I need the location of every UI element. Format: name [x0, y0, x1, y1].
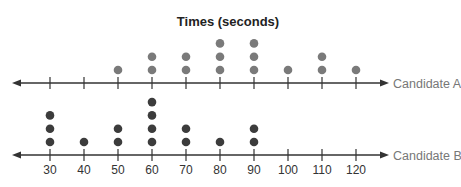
data-dot — [148, 66, 157, 75]
tick-label: 100 — [278, 163, 298, 177]
tick-label: 60 — [145, 163, 159, 177]
data-dot — [250, 138, 259, 147]
data-dot — [250, 52, 259, 61]
tick-label: 120 — [346, 163, 366, 177]
right-arrow-icon — [380, 152, 389, 159]
data-dot — [216, 138, 225, 147]
series-label: Candidate A — [393, 77, 461, 91]
candidate-b-plot: 30405060708090100110120Candidate B — [12, 98, 461, 177]
dot-plot-chart: Times (seconds) Candidate A 304050607080… — [0, 0, 461, 187]
chart-title: Times (seconds) — [177, 14, 279, 29]
left-arrow-icon — [12, 152, 21, 159]
data-dot — [182, 124, 191, 133]
data-dot — [46, 138, 55, 147]
tick-label: 30 — [43, 163, 57, 177]
data-dot — [318, 52, 327, 61]
data-dot — [352, 66, 361, 75]
data-dot — [114, 66, 123, 75]
data-dot — [216, 52, 225, 61]
data-dot — [182, 66, 191, 75]
data-dot — [114, 138, 123, 147]
tick-label: 70 — [179, 163, 193, 177]
data-dot — [250, 66, 259, 75]
data-dot — [182, 138, 191, 147]
candidate-a-plot: Candidate A — [12, 39, 461, 90]
data-dot — [250, 39, 259, 48]
data-dot — [148, 111, 157, 120]
data-dot — [216, 66, 225, 75]
data-dot — [148, 138, 157, 147]
tick-label: 50 — [111, 163, 125, 177]
series-label: Candidate B — [393, 149, 461, 163]
data-dot — [114, 124, 123, 133]
right-arrow-icon — [380, 80, 389, 87]
data-dot — [182, 52, 191, 61]
data-dot — [250, 124, 259, 133]
data-dot — [46, 111, 55, 120]
data-dot — [216, 39, 225, 48]
data-dot — [318, 66, 327, 75]
left-arrow-icon — [12, 80, 21, 87]
data-dot — [46, 124, 55, 133]
tick-label: 90 — [247, 163, 261, 177]
tick-label: 110 — [312, 163, 331, 177]
tick-label: 40 — [77, 163, 91, 177]
tick-label: 80 — [213, 163, 227, 177]
data-dot — [80, 138, 89, 147]
data-dot — [284, 66, 293, 75]
data-dot — [148, 52, 157, 61]
data-dot — [148, 124, 157, 133]
data-dot — [148, 98, 157, 107]
